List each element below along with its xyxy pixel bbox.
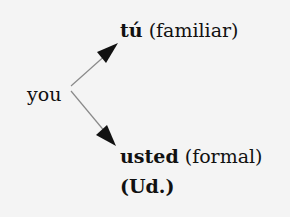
gloss-familiar: (familiar)	[149, 19, 239, 41]
source-word: you	[27, 83, 61, 105]
target-familiar: tú (familiar)	[120, 19, 238, 41]
gloss-formal: (formal)	[185, 145, 263, 167]
arrowhead-formal-icon	[96, 125, 116, 146]
abbrev-ud: (Ud.)	[120, 175, 174, 197]
arrow-line-formal	[71, 91, 106, 133]
term-tu: tú	[120, 19, 143, 41]
target-formal: usted (formal)	[120, 145, 263, 167]
term-usted: usted	[120, 145, 179, 167]
